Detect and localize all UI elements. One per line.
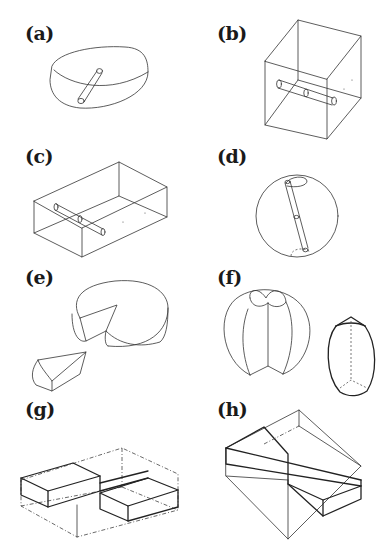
diagonal-cut-box-diagram xyxy=(0,0,392,547)
